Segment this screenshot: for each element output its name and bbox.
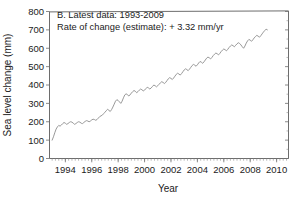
x-axis-label: Year <box>158 183 179 194</box>
x-tick-label: 2002 <box>160 164 181 175</box>
rate-of-change-annotation: Rate of change (estimate): + 3.32 mm/yr <box>57 22 224 32</box>
sea-level-chart-figure: Sea level change (mm) Year B. Latest dat… <box>0 0 303 197</box>
y-tick-label: 700 <box>28 24 44 35</box>
x-tick-label: 2006 <box>213 164 234 175</box>
y-axis-label: Sea level change (mm) <box>2 34 13 137</box>
x-tick-label: 2004 <box>187 164 208 175</box>
y-tick-label: 300 <box>28 98 44 109</box>
y-tick-label: 500 <box>28 61 44 72</box>
y-axis-tick-labels: 0100200300400500600700800 <box>28 6 44 164</box>
x-tick-label: 2008 <box>240 164 261 175</box>
y-tick-label: 800 <box>28 6 44 17</box>
chart-text-layer: Sea level change (mm) Year B. Latest dat… <box>0 0 303 197</box>
y-tick-label: 200 <box>28 116 44 127</box>
x-tick-label: 1994 <box>55 164 76 175</box>
y-tick-label: 0 <box>39 153 44 164</box>
x-tick-label: 1998 <box>108 164 129 175</box>
x-tick-label: 2010 <box>266 164 287 175</box>
panel-label-annotation: B. Latest data: 1993-2009 <box>57 10 164 20</box>
y-tick-label: 600 <box>28 43 44 54</box>
x-axis-tick-labels: 199419961998200020022004200620082010 <box>55 164 287 175</box>
y-tick-label: 100 <box>28 135 44 146</box>
y-tick-label: 400 <box>28 79 44 90</box>
x-tick-label: 1996 <box>81 164 102 175</box>
x-tick-label: 2000 <box>134 164 155 175</box>
